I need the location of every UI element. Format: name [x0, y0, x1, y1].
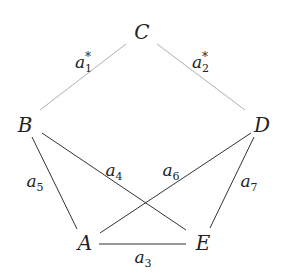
node-b: B	[18, 115, 33, 135]
edge-label-a4: a4	[105, 162, 122, 182]
edge-label-a1-star: a*1	[75, 54, 93, 71]
graph-diagram: C B D A E a*1 a*2 a5 a4 a6 a7 a3	[0, 0, 285, 274]
edge-label-a2-star: a*2	[192, 54, 210, 71]
node-d: D	[254, 115, 270, 135]
edge-label-a7: a7	[240, 173, 257, 193]
edge-label-a3: a3	[134, 249, 151, 269]
node-e: E	[196, 233, 211, 253]
node-a: A	[78, 233, 92, 253]
edge-label-a6: a6	[162, 162, 179, 182]
edge-label-a5: a5	[26, 173, 43, 193]
node-c: C	[134, 22, 149, 42]
